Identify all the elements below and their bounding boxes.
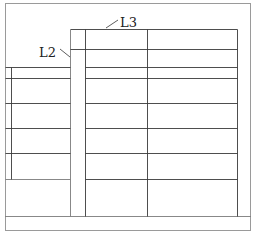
l2-leader-line (60, 49, 70, 57)
label-l2: L2 (39, 45, 56, 60)
l3-leader-line (106, 20, 118, 28)
grid-diagram: L3 L2 (0, 0, 253, 240)
label-l3: L3 (120, 15, 137, 30)
outer-frame (6, 4, 251, 231)
